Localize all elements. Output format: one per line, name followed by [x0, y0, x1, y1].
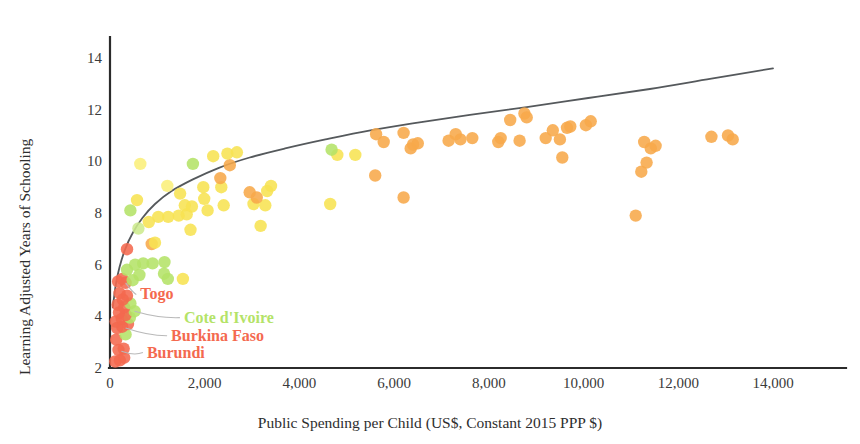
- scatter-point: [162, 211, 174, 223]
- y-axis-title: Learning Adjusted Years of Schooling: [16, 138, 33, 375]
- annotation-labels: TogoCote d'IvoireBurkina FasoBurundi: [140, 285, 273, 360]
- scatter-point: [161, 180, 173, 192]
- scatter-point: [201, 204, 213, 216]
- scatter-point: [638, 136, 650, 148]
- scatter-point: [113, 287, 125, 299]
- x-tick-label: 12,000: [658, 375, 699, 391]
- scatter-point: [244, 186, 256, 198]
- annotation-label: Burkina Faso: [171, 327, 264, 344]
- scatter-point: [231, 146, 243, 158]
- trend-line-group: [113, 68, 773, 307]
- scatter-point: [504, 114, 516, 126]
- scatter-point: [121, 243, 133, 255]
- x-tick-label: 8,000: [472, 375, 506, 391]
- scatter-point: [370, 128, 382, 140]
- x-axis-tick-labels: 02,0004,0006,0008,00010,00012,00014,000: [106, 375, 793, 391]
- x-tick-label: 0: [106, 375, 114, 391]
- scatter-point: [177, 273, 189, 285]
- scatter-point: [547, 124, 559, 136]
- y-tick-label: 8: [95, 205, 103, 221]
- x-tick-label: 10,000: [563, 375, 604, 391]
- scatter-point: [521, 111, 533, 123]
- annotation-label: Burundi: [147, 344, 205, 361]
- scatter-point: [124, 204, 136, 216]
- x-tick-label: 4,000: [283, 375, 317, 391]
- scatter-point: [466, 132, 478, 144]
- scatter-point: [146, 257, 158, 269]
- scatter-point: [397, 127, 409, 139]
- scatter-point: [132, 222, 144, 234]
- y-tick-label: 12: [87, 102, 102, 118]
- scatter-point: [369, 169, 381, 181]
- scatter-point: [397, 191, 409, 203]
- scatter-point: [564, 120, 576, 132]
- scatter-plot-svg: 2468101214 02,0004,0006,0008,00010,00012…: [0, 0, 860, 444]
- x-axis-title: Public Spending per Child (US$, Constant…: [258, 414, 602, 432]
- scatter-point: [197, 181, 209, 193]
- x-tick-label: 14,000: [752, 375, 793, 391]
- scatter-point: [705, 131, 717, 143]
- y-tick-label: 4: [95, 308, 103, 324]
- trend-line: [113, 68, 773, 307]
- scatter-point: [218, 199, 230, 211]
- scatter-point: [184, 224, 196, 236]
- y-tick-label: 6: [95, 257, 103, 273]
- scatter-point: [727, 133, 739, 145]
- scatter-point: [158, 268, 170, 280]
- scatter-point: [186, 200, 198, 212]
- x-tick-label: 2,000: [188, 375, 222, 391]
- y-axis-tick-labels: 2468101214: [87, 50, 103, 376]
- annotation-label: Togo: [140, 285, 173, 303]
- scatter-point: [131, 194, 143, 206]
- scatter-point: [198, 193, 210, 205]
- scatter-point: [224, 159, 236, 171]
- scatter-point: [174, 187, 186, 199]
- scatter-point: [630, 209, 642, 221]
- scatter-point: [254, 220, 266, 232]
- scatter-point: [349, 149, 361, 161]
- scatter-point: [495, 132, 507, 144]
- scatter-point: [134, 158, 146, 170]
- annotation-leader-line: [126, 328, 168, 336]
- annotation-label: Cote d'Ivoire: [184, 309, 274, 326]
- chart-figure: 2468101214 02,0004,0006,0008,00010,00012…: [0, 0, 860, 444]
- y-tick-label: 2: [95, 360, 103, 376]
- annotation-leader-line: [135, 311, 180, 317]
- scatter-point: [585, 115, 597, 127]
- scatter-point: [265, 180, 277, 192]
- scatter-point: [149, 237, 161, 249]
- scatter-point: [324, 198, 336, 210]
- x-tick-label: 6,000: [377, 375, 411, 391]
- scatter-point: [207, 150, 219, 162]
- scatter-point: [412, 137, 424, 149]
- y-tick-label: 10: [87, 153, 102, 169]
- scatter-point: [187, 158, 199, 170]
- scatter-point: [214, 172, 226, 184]
- scatter-point: [640, 156, 652, 168]
- scatter-point: [556, 151, 568, 163]
- scatter-point: [450, 128, 462, 140]
- scatter-point: [649, 140, 661, 152]
- scatter-point: [513, 135, 525, 147]
- scatter-point: [325, 144, 337, 156]
- scatter-point: [158, 256, 170, 268]
- y-tick-label: 14: [87, 50, 103, 66]
